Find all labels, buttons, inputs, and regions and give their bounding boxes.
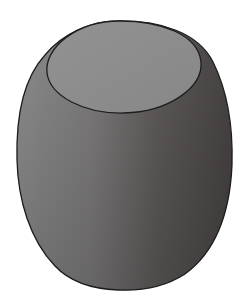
figure-canvas bbox=[0, 0, 243, 306]
barrel-shape-illustration bbox=[0, 0, 243, 306]
